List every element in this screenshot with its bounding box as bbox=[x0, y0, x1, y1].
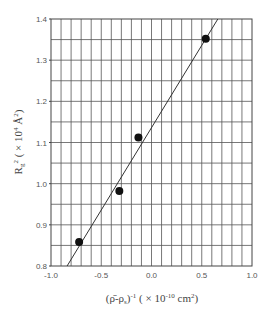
y-tick-labels: 0.80.91.01.11.21.31.4 bbox=[36, 15, 51, 271]
x-tick-labels: -1.0-0.50.00.51.0 bbox=[44, 271, 258, 280]
grid bbox=[51, 19, 252, 266]
x-tick-label: 0.5 bbox=[196, 271, 208, 280]
data-points bbox=[75, 35, 210, 246]
x-tick-label: -1.0 bbox=[44, 271, 58, 280]
data-point bbox=[115, 187, 123, 195]
x-tick-label: -0.5 bbox=[94, 271, 108, 280]
y-tick-label: 1.0 bbox=[36, 180, 48, 189]
y-tick-label: 0.8 bbox=[36, 262, 48, 271]
data-point bbox=[202, 35, 210, 43]
data-point bbox=[75, 238, 83, 246]
y-tick-label: 1.2 bbox=[36, 97, 48, 106]
data-point bbox=[134, 134, 142, 142]
chart: 0.80.91.01.11.21.31.4 -1.0-0.50.00.51.0 … bbox=[0, 0, 270, 320]
x-tick-label: 1.0 bbox=[246, 271, 258, 280]
x-tick-label: 0.0 bbox=[146, 271, 158, 280]
y-tick-label: 0.9 bbox=[36, 221, 48, 230]
x-axis-label: (ρ̄-ρs)-1 ( × 10-10 cm2) bbox=[106, 292, 199, 306]
y-tick-label: 1.4 bbox=[36, 15, 48, 24]
y-tick-label: 1.3 bbox=[36, 56, 48, 65]
y-axis-label: Rg2 ( × 104 Å2) bbox=[12, 109, 26, 174]
y-tick-label: 1.1 bbox=[36, 139, 48, 148]
